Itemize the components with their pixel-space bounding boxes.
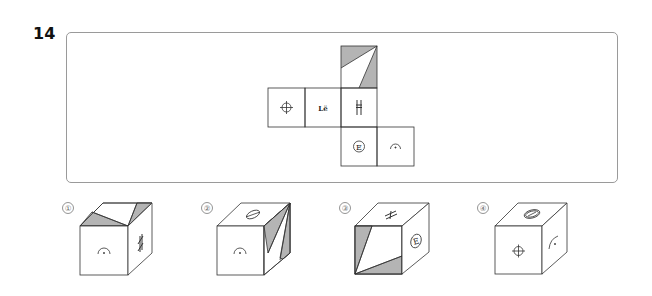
option-label: ③ (342, 204, 349, 213)
net-face-top (341, 46, 377, 88)
option-2[interactable]: ② (202, 203, 291, 276)
net-face-left (268, 88, 305, 127)
option-4[interactable]: ④ (478, 203, 568, 275)
option-label: ② (204, 204, 211, 213)
svg-text:E: E (356, 143, 362, 152)
glyph-le-icon: Lё (318, 104, 328, 113)
crosshair-circle-icon (280, 101, 293, 114)
h-bar-icon (356, 100, 362, 115)
net-face-bottom-right (377, 127, 414, 166)
figure-canvas: Lё E ① (0, 0, 652, 296)
net-face-bottom: E (341, 127, 377, 166)
option-3[interactable]: ③ E (340, 203, 430, 275)
option-label: ① (65, 204, 72, 213)
net-face-center-left: Lё (305, 88, 341, 127)
option-label: ④ (480, 204, 487, 213)
net-face-center (341, 88, 377, 127)
cube-net: Lё E (268, 46, 414, 166)
option-1[interactable]: ① (63, 203, 153, 276)
